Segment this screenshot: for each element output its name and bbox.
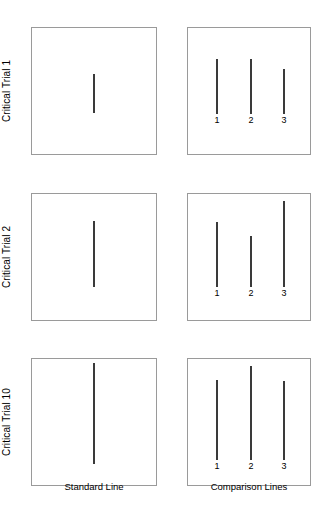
trial-row: Critical Trial 10 1 2 3 <box>0 358 332 486</box>
comparison-lines-panel-trial-10: 1 2 3 <box>187 358 311 486</box>
caption-standard-line: Standard Line <box>31 481 157 493</box>
trial-row: Critical Trial 1 1 2 3 <box>0 27 332 155</box>
standard-line-panel-trial-1 <box>31 27 157 155</box>
comparison-line-3-trial-10 <box>283 381 285 460</box>
comparison-label-3-trial-2: 3 <box>278 288 290 298</box>
trial-row: Critical Trial 2 1 2 3 <box>0 193 332 321</box>
standard-line-trial-10 <box>93 363 95 464</box>
caption-comparison-lines: Comparison Lines <box>187 481 311 493</box>
comparison-label-1-trial-2: 1 <box>211 288 223 298</box>
standard-line-panel-trial-2 <box>31 193 157 321</box>
row-label-trial-1: Critical Trial 1 <box>0 27 14 155</box>
comparison-label-2-trial-2: 2 <box>245 288 257 298</box>
comparison-label-2-trial-10: 2 <box>245 461 257 471</box>
comparison-label-1-trial-1: 1 <box>211 115 223 125</box>
comparison-line-2-trial-1 <box>250 59 252 114</box>
comparison-line-3-trial-2 <box>283 201 285 287</box>
comparison-line-2-trial-10 <box>250 366 252 460</box>
comparison-lines-panel-trial-2: 1 2 3 <box>187 193 311 321</box>
comparison-label-1-trial-10: 1 <box>211 461 223 471</box>
comparison-line-1-trial-10 <box>216 380 218 460</box>
row-label-trial-10: Critical Trial 10 <box>0 358 14 486</box>
comparison-line-1-trial-1 <box>216 59 218 114</box>
standard-line-trial-2 <box>93 221 95 287</box>
comparison-line-1-trial-2 <box>216 222 218 287</box>
comparison-label-2-trial-1: 2 <box>245 115 257 125</box>
comparison-line-2-trial-2 <box>250 236 252 287</box>
comparison-lines-panel-trial-1: 1 2 3 <box>187 27 311 155</box>
standard-line-panel-trial-10 <box>31 358 157 486</box>
row-label-trial-2: Critical Trial 2 <box>0 193 14 321</box>
comparison-label-3-trial-10: 3 <box>278 461 290 471</box>
comparison-line-3-trial-1 <box>283 69 285 114</box>
comparison-label-3-trial-1: 3 <box>278 115 290 125</box>
standard-line-trial-1 <box>93 74 95 113</box>
asch-line-judgment-figure: Critical Trial 1 1 2 3 Critical Trial 2 … <box>0 0 332 512</box>
